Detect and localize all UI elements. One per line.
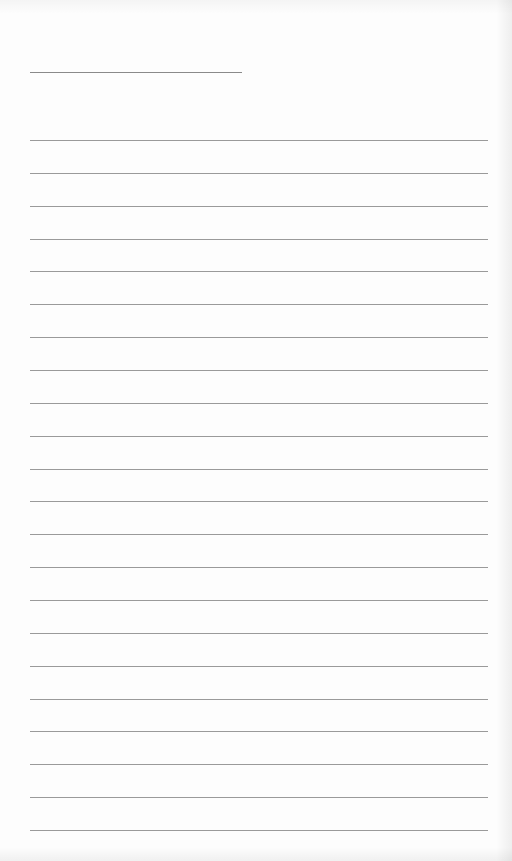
ruled-line <box>30 337 488 338</box>
ruled-line <box>30 239 488 240</box>
ruled-line <box>30 173 488 174</box>
ruled-line <box>30 469 488 470</box>
ruled-line <box>30 206 488 207</box>
ruled-line <box>30 600 488 601</box>
lined-paper-page <box>0 0 512 861</box>
ruled-line <box>30 370 488 371</box>
ruled-line <box>30 534 488 535</box>
ruled-line <box>30 731 488 732</box>
ruled-line <box>30 666 488 667</box>
ruled-line <box>30 271 488 272</box>
title-underline <box>30 72 242 73</box>
ruled-line <box>30 304 488 305</box>
ruled-line <box>30 140 488 141</box>
ruled-line <box>30 436 488 437</box>
ruled-line <box>30 830 488 831</box>
ruled-line <box>30 797 488 798</box>
ruled-line <box>30 699 488 700</box>
ruled-line <box>30 764 488 765</box>
ruled-line <box>30 501 488 502</box>
ruled-line <box>30 567 488 568</box>
ruled-line <box>30 403 488 404</box>
ruled-line <box>30 633 488 634</box>
